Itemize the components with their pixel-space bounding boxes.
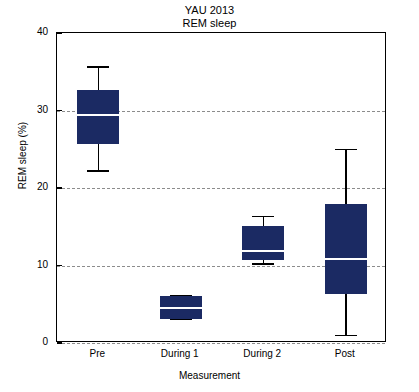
y-tick-mark-10 bbox=[57, 265, 62, 267]
y-tick-mark-40 bbox=[57, 32, 62, 34]
x-tick-label-during-2: During 2 bbox=[222, 348, 302, 359]
whisker-cap-lower bbox=[335, 335, 357, 337]
chart-title: YAU 2013 bbox=[0, 4, 419, 17]
gridline-0 bbox=[57, 343, 385, 344]
box-during-2 bbox=[242, 226, 284, 260]
chart-title-block: YAU 2013 REM sleep bbox=[0, 4, 419, 30]
y-tick-label-30: 30 bbox=[10, 105, 48, 115]
whisker-cap-upper bbox=[335, 149, 357, 151]
y-tick-mark-0 bbox=[57, 342, 62, 344]
x-axis-label: Measurement bbox=[0, 370, 419, 381]
y-tick-mark-30 bbox=[57, 110, 62, 112]
median-line bbox=[242, 250, 284, 252]
box-post bbox=[325, 204, 367, 294]
box-pre bbox=[77, 90, 119, 144]
median-line bbox=[325, 258, 367, 260]
y-tick-label-20: 20 bbox=[10, 182, 48, 192]
plot-area bbox=[56, 32, 386, 342]
y-tick-label-10: 10 bbox=[10, 260, 48, 270]
chart-subtitle: REM sleep bbox=[0, 17, 419, 30]
x-tick-label-during-1: During 1 bbox=[140, 348, 220, 359]
y-tick-label-0: 0 bbox=[10, 337, 48, 347]
whisker-cap-lower bbox=[252, 263, 274, 265]
whisker-cap-lower bbox=[87, 170, 109, 172]
whisker-cap-upper bbox=[252, 216, 274, 218]
x-tick-label-post: Post bbox=[305, 348, 385, 359]
whisker-cap-upper bbox=[87, 66, 109, 68]
median-line bbox=[77, 114, 119, 116]
median-line bbox=[160, 307, 202, 309]
y-tick-label-40: 40 bbox=[10, 27, 48, 37]
box-plot-figure: YAU 2013 REM sleep REM sleep (%) Measure… bbox=[0, 0, 419, 392]
y-tick-mark-20 bbox=[57, 187, 62, 189]
gridline-20 bbox=[57, 188, 385, 189]
x-tick-label-pre: Pre bbox=[57, 348, 137, 359]
